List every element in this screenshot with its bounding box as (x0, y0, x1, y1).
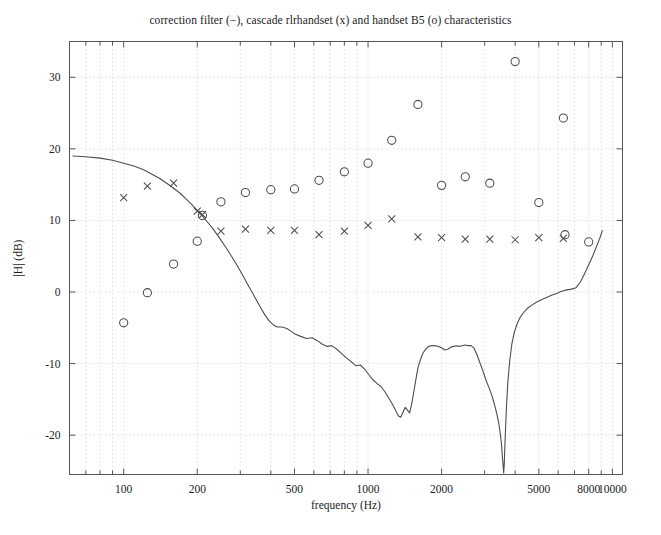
x-tick-label: 500 (286, 483, 304, 495)
x-tick-label: 5000 (527, 483, 550, 495)
y-tick-label: 10 (49, 214, 61, 226)
y-axis-title: |H| (dB) (12, 239, 25, 276)
x-axis-tick-labels: 100200500100020005000800010000 (115, 483, 627, 495)
y-tick-label: -20 (45, 429, 61, 441)
chart-plot-area: 100200500100020005000800010000 3020100-1… (0, 0, 661, 535)
y-tick-label: 20 (49, 143, 61, 155)
figure-container: correction filter (−), cascade rlrhandse… (0, 0, 661, 535)
plot-frame (70, 42, 623, 475)
y-tick-label: 0 (55, 286, 61, 298)
x-tick-label: 10000 (598, 483, 627, 495)
x-tick-label: 2000 (430, 483, 453, 495)
x-tick-label: 200 (189, 483, 207, 495)
x-tick-label: 8000 (577, 483, 600, 495)
y-tick-label: -10 (45, 358, 61, 370)
grid-lines (70, 42, 623, 475)
x-tick-label: 1000 (357, 483, 380, 495)
y-tick-label: 30 (49, 71, 61, 83)
y-axis-tick-labels: 3020100-10-20 (45, 71, 61, 441)
series-o (120, 57, 593, 326)
x-tick-label: 100 (115, 483, 133, 495)
series-- (73, 156, 602, 473)
series-x (120, 180, 567, 244)
data-series-layer (73, 57, 602, 473)
x-axis-title: frequency (Hz) (311, 499, 381, 512)
minor-ticks (86, 42, 601, 475)
major-ticks (70, 42, 623, 475)
